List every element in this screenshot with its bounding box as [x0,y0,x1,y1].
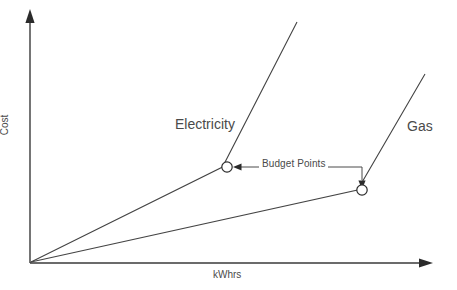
budget-point-marker-electricity [222,162,232,172]
chart-graphics [0,0,457,290]
budget-point-marker-gas [357,185,367,195]
annotation-budget-points: Budget Points [262,159,326,169]
series-label-electricity: Electricity [175,117,235,131]
budget-leader-line-right [328,167,362,180]
y-axis-label: Cost [0,115,10,136]
y-axis-arrow-icon [25,9,34,23]
chart-canvas: Electricity Gas Budget Points kWhrs Cost [0,0,457,290]
x-axis-label: kWhrs [213,270,241,280]
series-label-gas: Gas [407,119,433,133]
budget-arrow-electricity-icon [233,163,242,170]
electricity-series-line [31,22,297,262]
x-axis-arrow-icon [419,258,433,267]
